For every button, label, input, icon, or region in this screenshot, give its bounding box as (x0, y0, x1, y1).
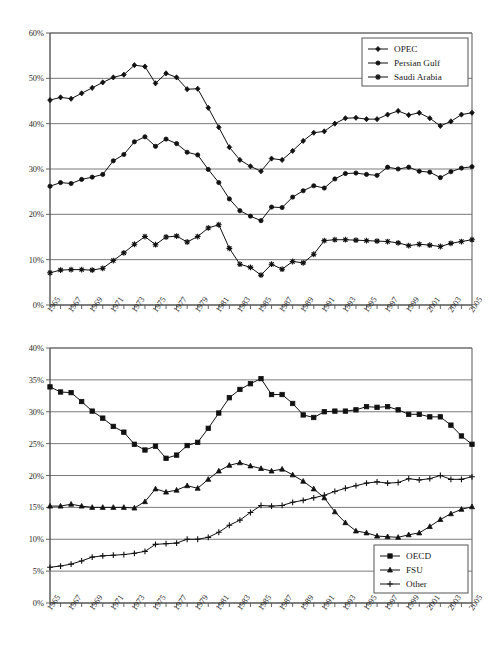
data-point-diamond (385, 112, 390, 117)
data-point-square (333, 409, 337, 413)
x-axis-tick-label: 2005 (467, 295, 484, 314)
data-point-asterisk (395, 240, 401, 246)
data-point-square (90, 409, 94, 413)
data-point-asterisk (100, 265, 106, 271)
data-point-circle (217, 181, 221, 185)
data-point-circle (291, 195, 295, 199)
data-point-diamond (90, 85, 95, 90)
data-point-square (470, 442, 474, 446)
data-point-plus (311, 495, 317, 501)
data-point-diamond (364, 117, 369, 122)
series-persian-gulf (48, 135, 474, 223)
data-point-square (290, 401, 294, 405)
data-point-circle (364, 172, 368, 176)
data-point-circle (459, 166, 463, 170)
data-point-plus (416, 477, 422, 483)
data-point-circle (375, 173, 379, 177)
data-point-diamond (459, 112, 464, 117)
chart-legend: OPECPersian GulfSaudi Arabia (362, 38, 468, 86)
data-point-diamond (206, 105, 211, 110)
data-point-asterisk (375, 74, 381, 80)
data-point-plus (79, 558, 85, 564)
data-point-diamond (417, 110, 422, 115)
data-point-triangle (438, 517, 443, 522)
data-point-circle (196, 153, 200, 157)
data-point-circle (322, 186, 326, 190)
data-point-plus (226, 522, 232, 528)
data-point-circle (58, 181, 62, 185)
data-point-square (132, 442, 136, 446)
data-point-circle (175, 142, 179, 146)
data-point-asterisk (448, 240, 454, 246)
data-point-triangle (470, 504, 475, 509)
data-point-asterisk (89, 267, 95, 273)
data-point-square (217, 411, 221, 415)
y-axis-tick-label: 25% (29, 440, 44, 449)
data-point-square (407, 412, 411, 416)
data-point-plus (343, 485, 349, 491)
data-point-circle (343, 171, 347, 175)
data-point-asterisk (353, 237, 359, 243)
data-point-diamond (343, 116, 348, 121)
data-point-circle (269, 205, 273, 209)
y-axis-tick-label: 10% (29, 256, 44, 265)
data-point-circle (227, 197, 231, 201)
data-point-asterisk (47, 270, 53, 276)
data-point-asterisk (332, 237, 338, 243)
data-point-circle (354, 171, 358, 175)
data-point-plus (58, 563, 64, 569)
series-saudi-arabia (47, 222, 475, 278)
data-point-square (438, 415, 442, 419)
data-point-plus (163, 541, 169, 547)
data-point-asterisk (290, 259, 296, 265)
data-point-triangle (290, 472, 295, 477)
data-point-square (343, 409, 347, 413)
y-axis-tick-label: 5% (33, 567, 44, 576)
data-point-plus (174, 540, 180, 546)
data-point-diamond (322, 129, 327, 134)
data-point-diamond (48, 97, 53, 102)
data-point-circle (111, 159, 115, 163)
data-point-diamond (354, 115, 359, 120)
data-point-square (174, 453, 178, 457)
data-point-square (101, 416, 105, 420)
data-point-circle (428, 170, 432, 174)
data-point-circle (80, 177, 84, 181)
data-point-diamond (428, 116, 433, 121)
data-point-circle (206, 167, 210, 171)
data-point-square (79, 399, 83, 403)
y-axis-tick-label: 60% (29, 29, 44, 38)
series-line (50, 225, 472, 275)
data-point-diamond (58, 95, 63, 100)
data-point-plus (184, 536, 190, 542)
consumption-share-chart: 0%5%10%15%20%25%30%35%40%196519671969197… (0, 335, 499, 650)
data-point-square (375, 405, 379, 409)
data-point-circle (301, 189, 305, 193)
data-point-square (196, 440, 200, 444)
data-point-circle (312, 184, 316, 188)
data-point-asterisk (416, 241, 422, 247)
data-point-asterisk (300, 260, 306, 266)
data-point-square (164, 456, 168, 460)
data-point-triangle (216, 468, 221, 473)
opec-share-chart: 0%10%20%30%40%50%60%19651967196919711973… (0, 0, 499, 335)
data-point-plus (110, 552, 116, 558)
series-line (50, 379, 472, 459)
data-point-asterisk (174, 233, 180, 239)
y-axis-tick-label: 10% (29, 535, 44, 544)
legend-label: OECD (406, 551, 431, 561)
data-point-plus (459, 476, 465, 482)
data-point-circle (417, 169, 421, 173)
data-point-circle (386, 165, 390, 169)
data-point-asterisk (385, 239, 391, 245)
data-point-plus (332, 489, 338, 495)
data-point-square (385, 404, 389, 408)
series-fsu (48, 460, 475, 539)
data-point-asterisk (205, 225, 211, 231)
data-point-circle (122, 152, 126, 156)
data-point-diamond (195, 86, 200, 91)
data-point-square (269, 392, 273, 396)
data-point-asterisk (184, 239, 190, 245)
y-axis-tick-label: 30% (29, 408, 44, 417)
data-point-asterisk (121, 250, 127, 256)
